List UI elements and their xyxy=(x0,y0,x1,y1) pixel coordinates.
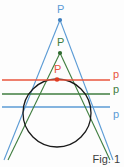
figure-container: P P P p p p Fig. 1 xyxy=(0,0,124,167)
red-construction-group xyxy=(2,77,110,82)
green-pole-point xyxy=(58,51,62,55)
red-polar-label: p xyxy=(113,69,119,80)
blue-pole-point xyxy=(58,18,62,22)
blue-polar-label: p xyxy=(113,109,119,120)
red-pole-label: P xyxy=(54,64,61,75)
red-pole-point xyxy=(55,77,60,82)
blue-tangent-line-right xyxy=(60,20,113,160)
green-pole-label: P xyxy=(57,37,64,48)
geometry-diagram xyxy=(0,0,124,167)
conic-circle xyxy=(23,79,91,147)
blue-pole-label: P xyxy=(57,4,64,15)
figure-caption: Fig. 1 xyxy=(92,153,120,165)
green-polar-label: p xyxy=(113,84,119,95)
